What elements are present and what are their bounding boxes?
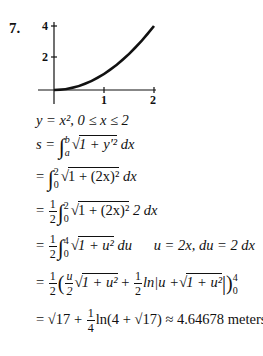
function-definition: y = x², 0 ≤ x ≤ 2 <box>36 113 129 128</box>
parabola-graph: 4 2 1 2 <box>0 0 263 110</box>
step-3: = 12∫40√1 + u² du u = 2x, du = 2 dx <box>36 233 255 260</box>
final-result: = √17 + 14ln(4 + √17) ≈ 4.64678 meters <box>36 307 263 334</box>
y-tick-4: 4 <box>42 19 48 33</box>
x-tick-1: 1 <box>101 93 107 107</box>
x-tick-2: 2 <box>150 93 156 107</box>
step-1: = ∫20√1 + (2x)² dx <box>36 165 137 191</box>
arc-length-formula: s = ∫ba√1 + y′² dx <box>36 133 135 159</box>
y-tick-2: 2 <box>42 50 48 64</box>
step-4-antiderivative: = 12(u2√1 + u² + 12ln|u +√1 + u²|)40 <box>36 270 240 297</box>
step-2: = 12∫20√1 + (2x)² 2 dx <box>36 198 157 225</box>
substitution-note: u = 2x, du = 2 dx <box>154 237 255 253</box>
